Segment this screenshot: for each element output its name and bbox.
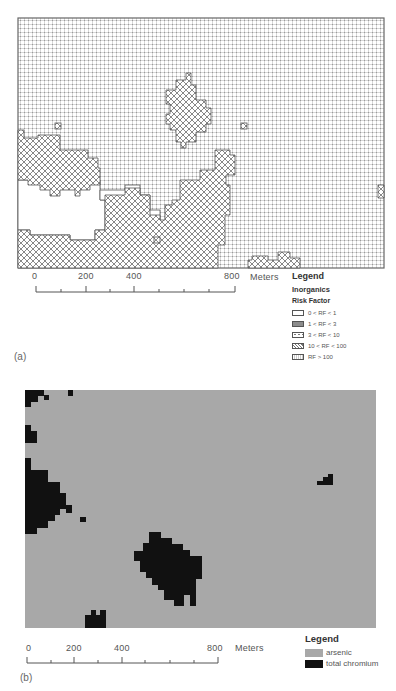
scale-unit: Meters [250, 272, 279, 282]
legend-title: Legend [305, 633, 378, 644]
legend-subtitle: Inorganics [292, 285, 346, 294]
legend-item-chromium: total chromium [305, 658, 378, 669]
panel-b-label: (b) [20, 672, 32, 683]
scale-tick-800: 800 [207, 643, 223, 653]
legend-title: Legend [292, 271, 346, 281]
legend-heading: Risk Factor [292, 297, 346, 304]
scale-bar-line [30, 284, 240, 296]
legend-item-rf-10-100: 10 < RF < 100 [292, 340, 346, 351]
white-swatch-icon [292, 310, 304, 316]
crosshatch-swatch-icon [292, 343, 304, 349]
legend-a: Legend Inorganics Risk Factor 0 < RF < 1… [292, 271, 346, 362]
dot-grid-swatch-icon [292, 354, 304, 360]
legend-item-arsenic: arsenic [305, 647, 378, 658]
scale-tick-200: 200 [78, 271, 94, 281]
scale-unit: Meters [235, 643, 264, 653]
contaminant-map [0, 385, 396, 635]
scale-tick-0: 0 [32, 271, 37, 281]
scale-tick-800: 800 [224, 271, 240, 281]
panel-a-label: (a) [14, 351, 26, 362]
scale-bar-line [22, 655, 222, 667]
legend-item-rf-1-3: 1 < RF < 3 [292, 318, 346, 329]
scale-tick-0: 0 [26, 643, 31, 653]
legend-item-rf-100: RF > 100 [292, 351, 346, 362]
legend-item-rf-0-1: 0 < RF < 1 [292, 307, 346, 318]
scale-tick-400: 400 [114, 643, 130, 653]
sparse-dot-swatch-icon [292, 332, 304, 338]
gray-swatch-icon [292, 321, 304, 327]
chromium-swatch-icon [305, 660, 323, 668]
legend-item-rf-3-10: 3 < RF < 10 [292, 329, 346, 340]
risk-factor-map [0, 0, 396, 275]
arsenic-swatch-icon [305, 649, 323, 657]
scale-tick-200: 200 [66, 643, 82, 653]
legend-b: Legend arsenic total chromium [305, 633, 378, 669]
scale-tick-400: 400 [126, 271, 142, 281]
